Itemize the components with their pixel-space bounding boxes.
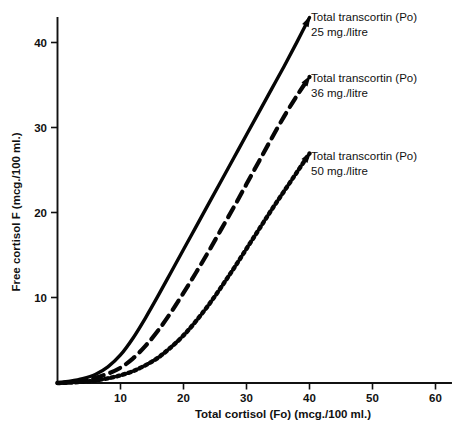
y-tick-label-10: 10 (34, 292, 47, 304)
x-axis-title: Total cortisol (Fo) (mcg./100 ml.) (195, 408, 371, 420)
series-arrow-25 (302, 16, 310, 27)
series-label-36: Total transcortin (Po) 36 mg./litre (311, 72, 417, 99)
chart-figure: 40 30 20 10 10 20 30 40 50 60 Total cort… (0, 0, 470, 428)
y-axis-ticks (51, 43, 58, 298)
x-tick-label-60: 60 (429, 392, 442, 404)
chart-canvas: 40 30 20 10 10 20 30 40 50 60 Total cort… (0, 0, 470, 428)
series-label-50-line2: 50 mg./litre (311, 165, 368, 177)
y-axis-tick-labels: 40 30 20 10 (34, 37, 47, 304)
x-tick-label-20: 20 (177, 392, 190, 404)
y-tick-label-40: 40 (34, 37, 47, 49)
x-axis-tick-labels: 10 20 30 40 50 60 (114, 392, 442, 404)
series-label-25: Total transcortin (Po) 25 mg./litre (311, 11, 417, 38)
x-tick-label-40: 40 (303, 392, 316, 404)
x-axis-ticks (121, 383, 436, 390)
y-axis-title: Free cortisol F (mcg./100 ml.) (10, 132, 22, 291)
series-label-36-line1: Total transcortin (Po) (311, 72, 417, 84)
y-tick-label-20: 20 (34, 207, 47, 219)
y-tick-label-30: 30 (34, 122, 47, 134)
series-label-50-line1: Total transcortin (Po) (311, 150, 417, 162)
series-line-25 (58, 18, 310, 384)
series-label-25-line2: 25 mg./litre (311, 26, 368, 38)
series-line-50 (58, 154, 310, 384)
x-tick-label-10: 10 (114, 392, 127, 404)
series-label-25-line1: Total transcortin (Po) (311, 11, 417, 23)
x-tick-label-30: 30 (240, 392, 253, 404)
series-label-50: Total transcortin (Po) 50 mg./litre (311, 150, 417, 177)
series-label-36-line2: 36 mg./litre (311, 87, 368, 99)
x-tick-label-50: 50 (366, 392, 379, 404)
